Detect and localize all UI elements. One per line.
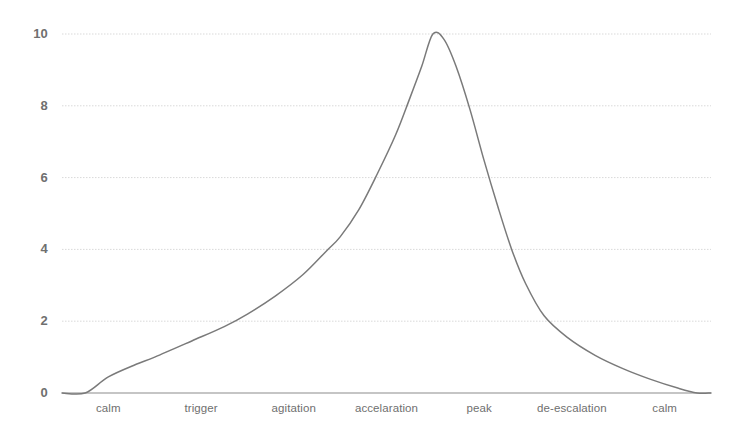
series-line-escalation-cycle (62, 32, 711, 394)
y-tick-label: 2 (22, 314, 48, 327)
x-tick-label-agitation: agitation (272, 403, 316, 415)
escalation-curve-chart: 0246810 calmtriggeragitationaccelaration… (0, 0, 746, 443)
y-tick-label: 8 (22, 99, 48, 112)
x-tick-label-accelaration: accelaration (355, 403, 418, 415)
x-tick-label-trigger: trigger (184, 403, 217, 415)
data-series-line (62, 32, 711, 394)
y-tick-label: 10 (22, 27, 48, 40)
x-tick-label-de-escalation: de-escalation (537, 403, 607, 415)
x-tick-label-peak: peak (467, 403, 492, 415)
chart-canvas (0, 0, 746, 443)
x-tick-label-calm: calm (652, 403, 677, 415)
y-tick-label: 0 (22, 386, 48, 399)
gridlines (62, 34, 711, 321)
y-tick-label: 4 (22, 242, 48, 255)
y-tick-label: 6 (22, 171, 48, 184)
x-tick-label-calm: calm (96, 403, 121, 415)
